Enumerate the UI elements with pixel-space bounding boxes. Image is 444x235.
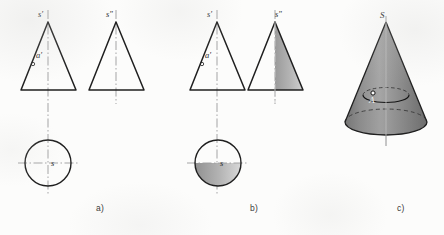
front-view-triangle-a — [21, 22, 76, 90]
label-c-point-a: A — [368, 95, 375, 105]
top-view-shaded-half-b — [193, 163, 243, 189]
caption-a: a) — [96, 203, 104, 213]
caption-c: c) — [397, 203, 404, 213]
label-b-front-point: a' — [205, 50, 211, 60]
figure-page: s' a' s" s s' a' s" s S A a) b) c) — [0, 0, 444, 235]
side-view-triangle-a — [89, 22, 144, 90]
panel-b — [187, 10, 307, 196]
caption-b: b) — [250, 203, 258, 213]
side-view-shaded-half-b — [275, 18, 307, 96]
front-view-triangle-b — [190, 22, 245, 90]
panel-a — [18, 10, 144, 196]
label-c-apex: S — [380, 10, 385, 20]
panel-c — [345, 16, 427, 146]
label-a-front-point: a' — [36, 50, 42, 60]
technical-drawing-canvas: s' a' s" s s' a' s" s S A — [0, 0, 444, 235]
label-a-front-apex: s' — [38, 9, 43, 19]
label-a-side-apex: s" — [106, 9, 113, 19]
label-b-front-apex: s' — [207, 9, 212, 19]
label-b-side-apex: s" — [275, 9, 282, 19]
